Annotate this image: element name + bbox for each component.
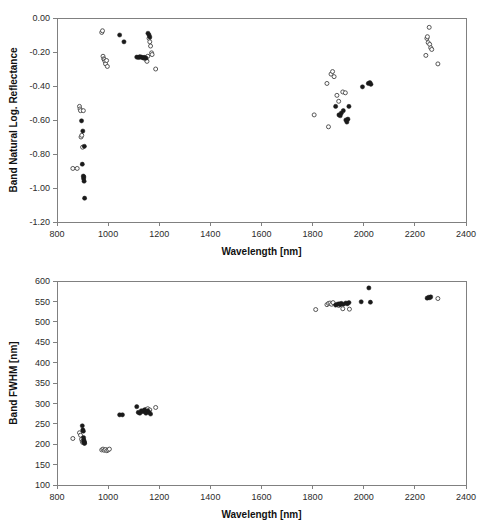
data-point-filled <box>360 85 364 89</box>
data-point-filled <box>346 117 350 121</box>
data-point-open <box>154 67 158 71</box>
x-axis-tick-label: 2200 <box>405 492 425 502</box>
data-point-open <box>75 166 79 170</box>
chart-bottom-canvas: 1001502002503003504004505005506008001000… <box>0 263 489 526</box>
data-point-open <box>335 93 339 97</box>
data-point-filled <box>144 56 148 60</box>
data-point-open <box>331 70 335 74</box>
data-point-open <box>326 125 330 129</box>
x-axis-title: Wavelength [nm] <box>221 246 301 257</box>
plot-area-frame <box>57 18 466 222</box>
data-point-filled <box>120 413 124 417</box>
data-point-filled <box>148 35 152 39</box>
data-point-open <box>427 25 431 29</box>
x-axis-tick-label: 1000 <box>98 492 118 502</box>
y-axis-tick-label: 400 <box>35 358 50 368</box>
data-point-open <box>105 59 109 63</box>
data-point-filled <box>367 286 371 290</box>
data-point-filled <box>79 119 83 123</box>
data-point-open <box>332 75 336 79</box>
data-point-filled <box>341 109 345 113</box>
data-point-filled <box>347 104 351 108</box>
data-point-filled <box>81 429 85 433</box>
data-point-open <box>154 405 158 409</box>
data-point-open <box>341 307 345 311</box>
data-point-open <box>312 113 316 117</box>
x-axis-tick-label: 1600 <box>251 492 271 502</box>
data-point-open <box>314 308 318 312</box>
y-axis-tick-label: 250 <box>35 419 50 429</box>
x-axis-tick-label: 800 <box>49 229 64 239</box>
data-point-open <box>71 166 75 170</box>
data-point-filled <box>82 179 86 183</box>
data-point-filled <box>368 300 372 304</box>
data-point-filled <box>83 196 87 200</box>
series-open-markers <box>71 297 440 453</box>
x-axis-tick-label: 800 <box>49 492 64 502</box>
data-point-open <box>436 297 440 301</box>
y-axis-tick-label: 450 <box>35 337 50 347</box>
data-point-open <box>430 47 434 51</box>
y-axis-tick-label: 550 <box>35 297 50 307</box>
data-point-filled <box>118 33 122 37</box>
data-point-open <box>436 62 440 66</box>
series-open-markers <box>71 25 440 170</box>
y-axis-tick-label: 200 <box>35 439 50 449</box>
data-point-filled <box>429 295 433 299</box>
data-point-open <box>80 133 84 137</box>
chart-band-fwhm: 1001502002503003504004505005506008001000… <box>0 263 489 526</box>
y-axis-title: Band FWHM [nm] <box>8 341 19 424</box>
y-axis-tick-label: -0.40 <box>29 81 50 91</box>
chart-band-natural-log-reflectance: 0.00-0.20-0.40-0.60-0.80-1.00-1.20800100… <box>0 0 489 263</box>
data-point-filled <box>122 40 126 44</box>
data-point-filled <box>82 175 86 179</box>
x-axis-tick-label: 1400 <box>200 229 220 239</box>
data-point-filled <box>80 424 84 428</box>
x-axis-tick-label: 1400 <box>200 492 220 502</box>
data-point-open <box>148 40 152 44</box>
x-axis-tick-label: 1800 <box>303 229 323 239</box>
y-axis-tick-label: 300 <box>35 399 50 409</box>
y-axis-title: Band Natural Log. Reflectance <box>8 47 19 192</box>
data-point-filled <box>135 405 139 409</box>
data-point-filled <box>369 82 373 86</box>
y-axis-tick-label: 150 <box>35 460 50 470</box>
y-axis-tick-label: 0.00 <box>32 13 50 23</box>
data-point-filled <box>359 300 363 304</box>
x-axis-tick-label: 2000 <box>354 229 374 239</box>
x-axis-tick-label: 1600 <box>251 229 271 239</box>
data-point-open <box>425 35 429 39</box>
y-axis-tick-label: -1.00 <box>29 183 50 193</box>
y-axis-tick-label: 350 <box>35 378 50 388</box>
data-point-open <box>424 53 428 57</box>
y-axis-tick-label: -0.60 <box>29 115 50 125</box>
y-axis-tick-label: 100 <box>35 480 50 490</box>
y-axis-tick-label: -1.20 <box>29 217 50 227</box>
y-axis-tick-label: 600 <box>35 276 50 286</box>
data-point-open <box>150 53 154 57</box>
x-axis-tick-label: 2400 <box>456 492 476 502</box>
series-filled-markers <box>79 31 373 200</box>
x-axis-tick-label: 1800 <box>303 492 323 502</box>
data-point-filled <box>81 129 85 133</box>
data-point-filled <box>82 144 86 148</box>
x-axis-tick-label: 1200 <box>149 492 169 502</box>
data-point-filled <box>347 301 351 305</box>
data-point-open <box>337 99 341 103</box>
x-axis-tick-label: 1200 <box>149 229 169 239</box>
data-point-open <box>71 436 75 440</box>
x-axis-tick-label: 2400 <box>456 229 476 239</box>
data-point-open <box>81 109 85 113</box>
data-point-filled <box>83 441 87 445</box>
data-point-filled <box>80 162 84 166</box>
series-filled-markers <box>80 286 433 446</box>
data-point-open <box>105 64 109 68</box>
y-axis-tick-label: -0.80 <box>29 149 50 159</box>
x-axis-tick-label: 2200 <box>405 229 425 239</box>
y-axis-tick-label: -0.20 <box>29 47 50 57</box>
x-axis-tick-label: 1000 <box>98 229 118 239</box>
chart-top-canvas: 0.00-0.20-0.40-0.60-0.80-1.00-1.20800100… <box>0 0 489 263</box>
y-axis-tick-label: 500 <box>35 317 50 327</box>
data-point-open <box>325 81 329 85</box>
x-axis-title: Wavelength [nm] <box>221 509 301 520</box>
